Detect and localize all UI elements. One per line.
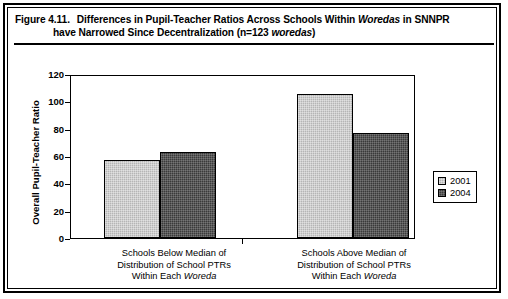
x-category-label-above-median: Schools Above Median of Distribution of … — [259, 248, 449, 283]
x-category-line: Schools Above Median of — [259, 248, 449, 260]
bars-container — [71, 76, 414, 238]
plot-area — [70, 75, 415, 239]
chart-legend: 2001 2004 — [433, 171, 477, 203]
x-category-line-text: Within Each — [132, 271, 184, 281]
legend-item-2001[interactable]: 2001 — [438, 175, 471, 187]
legend-swatch-icon — [438, 177, 446, 185]
y-tick-mark — [65, 239, 70, 240]
x-category-line: Within Each Woreda — [259, 271, 449, 283]
bar-2001-below-median[interactable] — [104, 160, 160, 238]
legend-item-2004[interactable]: 2004 — [438, 187, 471, 199]
bar-2001-above-median[interactable] — [297, 94, 353, 238]
x-category-line: Distribution of School PTRs — [259, 260, 449, 272]
bar-2004-above-median[interactable] — [353, 133, 409, 238]
x-category-line-text: Within Each — [312, 271, 364, 281]
chart-area: Overall Pupil-Teacher Ratio 0 20 40 60 8… — [5, 5, 503, 295]
x-category-line-italic: Woreda — [364, 271, 397, 281]
x-category-label-below-median: Schools Below Median of Distribution of … — [79, 248, 269, 283]
legend-label: 2004 — [450, 188, 471, 198]
y-axis-ticks — [5, 75, 75, 239]
x-category-line: Distribution of School PTRs — [79, 260, 269, 272]
bar-2004-below-median[interactable] — [160, 152, 216, 238]
legend-label: 2001 — [450, 176, 471, 186]
x-category-line: Schools Below Median of — [79, 248, 269, 260]
x-tick-mark — [242, 239, 243, 244]
x-category-line-italic: Woreda — [184, 271, 217, 281]
figure-frame: Figure 4.11.Differences in Pupil-Teacher… — [3, 3, 501, 293]
x-category-line: Within Each Woreda — [79, 271, 269, 283]
legend-swatch-icon — [438, 189, 446, 197]
